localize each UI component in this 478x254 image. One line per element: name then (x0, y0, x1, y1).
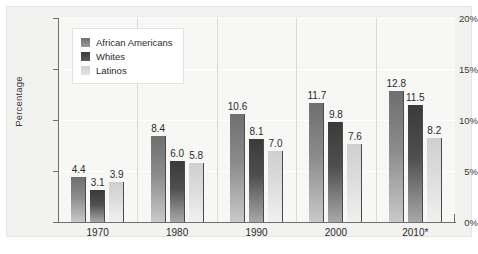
bar (427, 138, 442, 222)
chart-figure: Percentage 0%5%10%15%20% 197019801990200… (0, 0, 478, 254)
x-tick-label: 1970 (87, 227, 109, 238)
x-tick-label: 1990 (245, 227, 267, 238)
legend-item-latinos: Latinos (81, 63, 173, 77)
legend-label: Whites (96, 51, 125, 62)
bar (347, 144, 362, 222)
bar-value-label: 12.8 (387, 78, 406, 89)
legend-swatch-icon (81, 66, 90, 75)
y-tick-label: 15% (432, 64, 478, 75)
bar (268, 151, 283, 222)
y-tick-mark (53, 120, 58, 121)
chart-legend: African Americans Whites Latinos (72, 28, 184, 84)
y-tick-mark (53, 69, 58, 70)
clipped-source-caption (8, 249, 168, 254)
bar-value-label: 3.9 (110, 169, 124, 180)
x-tick-label: 1980 (166, 227, 188, 238)
bar-value-label: 8.1 (250, 126, 264, 137)
bar (170, 161, 185, 222)
bar-value-label: 7.0 (269, 138, 283, 149)
y-tick-mark (53, 171, 58, 172)
legend-swatch-icon (81, 38, 90, 47)
bar-value-label: 4.4 (72, 164, 86, 175)
bar (328, 122, 343, 222)
bar (151, 136, 166, 222)
bar-value-label: 10.6 (228, 101, 247, 112)
bar (90, 190, 105, 222)
bar (408, 105, 423, 222)
y-tick-label: 5% (432, 166, 478, 177)
bar (249, 139, 264, 222)
legend-label: African Americans (96, 37, 173, 48)
y-axis-line (58, 18, 59, 223)
bar (309, 103, 324, 222)
x-tick-label: 2000 (325, 227, 347, 238)
bar (109, 182, 124, 222)
bar (189, 163, 204, 222)
y-tick-label: 0% (432, 217, 478, 228)
bar-value-label: 7.6 (348, 131, 362, 142)
bar (389, 91, 404, 222)
bar-value-label: 5.8 (189, 150, 203, 161)
bar-value-label: 11.7 (308, 90, 327, 101)
legend-swatch-icon (81, 52, 90, 61)
y-tick-mark (53, 18, 58, 19)
bar-value-label: 8.4 (151, 123, 165, 134)
y-tick-mark (53, 222, 58, 223)
legend-item-whites: Whites (81, 49, 173, 63)
group-separator (217, 18, 218, 222)
group-separator (296, 18, 297, 222)
bar (230, 114, 245, 222)
bar-value-label: 8.2 (427, 125, 441, 136)
group-separator (376, 18, 377, 222)
bar-value-label: 6.0 (170, 148, 184, 159)
legend-label: Latinos (96, 65, 127, 76)
legend-item-african-americans: African Americans (81, 35, 173, 49)
x-axis-line (58, 222, 456, 223)
bar-value-label: 9.8 (329, 109, 343, 120)
x-tick-label: 2010* (402, 227, 428, 238)
y-tick-label: 20% (432, 13, 478, 24)
y-axis-title: Percentage (13, 62, 24, 142)
bar (71, 177, 86, 222)
bar-value-label: 3.1 (91, 177, 105, 188)
bar-value-label: 11.5 (406, 92, 425, 103)
gridline (58, 18, 455, 19)
y-tick-label: 10% (432, 115, 478, 126)
